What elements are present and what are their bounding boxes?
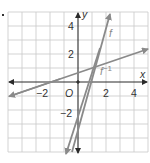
x-axis-label: x [139, 68, 146, 80]
tick-y-2: 2 [68, 48, 74, 60]
origin-label: O [65, 87, 73, 99]
graph: y x O −2 2 4 4 2 −2 f f−1 [0, 0, 150, 163]
tick-x-neg2: −2 [36, 87, 48, 99]
y-axis-label: y [81, 8, 88, 20]
tick-x-2: 2 [103, 87, 109, 99]
finv-label-sup: −1 [103, 64, 113, 73]
tick-y-neg2: −2 [60, 107, 72, 119]
tick-x-4: 4 [131, 87, 137, 99]
tick-y-4: 4 [68, 20, 74, 32]
f-label: f [109, 27, 113, 39]
